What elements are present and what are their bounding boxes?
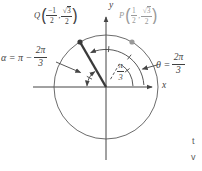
q-name: Q xyxy=(34,11,40,20)
q-open-paren: ( xyxy=(41,7,46,23)
p-name: P xyxy=(119,11,124,20)
point-q-dot xyxy=(77,39,82,44)
alpha-fraction: 2π 3 xyxy=(34,46,47,68)
theta-equation: θ = 2π 3 xyxy=(156,53,185,75)
alpha-equation: α = π − 2π 3 xyxy=(1,46,47,68)
unit-circle-figure: x y Q ( −1 2 , √3 2 ) P ( 1 2 , √3 2 xyxy=(0,0,202,171)
point-q-label: Q ( −1 2 , √3 2 ) xyxy=(34,6,78,25)
q-y-fraction: √3 2 xyxy=(61,6,72,25)
p-x-fraction: 1 2 xyxy=(131,7,138,25)
p-open-paren: ( xyxy=(125,7,130,23)
theta-lhs: θ = xyxy=(156,59,170,70)
q-close-paren: ) xyxy=(72,7,77,23)
theta-fraction: 2π 3 xyxy=(172,53,185,75)
q-comma: , xyxy=(58,12,60,20)
y-axis-label: y xyxy=(109,0,113,10)
edge-text-fragment-2: v xyxy=(191,152,196,162)
tick-theta-arc-upper xyxy=(108,46,109,52)
inner-angle-label: π 3 xyxy=(117,54,124,81)
point-p-label: P ( 1 2 , √3 2 ) xyxy=(119,6,157,25)
q-x-fraction: −1 2 xyxy=(46,7,57,25)
geometry-canvas xyxy=(0,0,202,171)
p-y-fraction: √3 2 xyxy=(141,6,152,25)
alpha-lhs: α = π − xyxy=(1,52,32,63)
p-close-paren: ) xyxy=(152,7,157,23)
p-comma: , xyxy=(138,12,140,20)
edge-text-fragment-1: t xyxy=(192,136,195,146)
alpha-pointer-arrow xyxy=(56,62,81,73)
inner-angle-fraction: π 3 xyxy=(117,61,124,81)
ray-oq xyxy=(80,42,106,87)
point-p-dot xyxy=(129,39,134,44)
x-axis-label: x xyxy=(162,80,166,90)
